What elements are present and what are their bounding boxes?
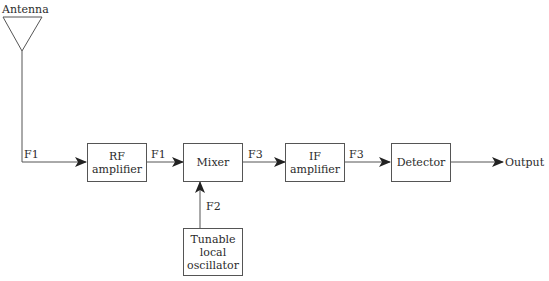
rf-amplifier-block: RF amplifier	[87, 143, 147, 182]
local-oscillator-block: Tunable local oscillator	[183, 228, 243, 276]
signal-f3-if-label: F3	[349, 148, 364, 161]
rf-amplifier-line2: amplifier	[92, 163, 142, 176]
lo-line1: Tunable	[190, 233, 235, 246]
detector-label: Detector	[397, 156, 446, 169]
signal-f1-in-label: F1	[24, 148, 39, 161]
detector-block: Detector	[391, 143, 451, 182]
if-amplifier-block: IF amplifier	[285, 143, 345, 182]
antenna-to-rf-line	[22, 51, 86, 162]
antenna-label: Antenna	[2, 3, 49, 16]
output-label: Output	[505, 156, 544, 169]
antenna-icon	[3, 17, 42, 51]
signal-f2-label: F2	[206, 200, 221, 213]
signal-f1-out-label: F1	[151, 148, 166, 161]
rf-amplifier-line1: RF	[109, 150, 125, 163]
mixer-label: Mixer	[197, 156, 230, 169]
if-amplifier-line1: IF	[309, 150, 321, 163]
lo-line3: oscillator	[187, 259, 239, 272]
connections-layer	[0, 0, 549, 281]
lo-line2: local	[200, 246, 226, 259]
mixer-block: Mixer	[183, 143, 243, 182]
signal-f3-mixer-label: F3	[248, 148, 263, 161]
if-amplifier-line2: amplifier	[290, 163, 340, 176]
